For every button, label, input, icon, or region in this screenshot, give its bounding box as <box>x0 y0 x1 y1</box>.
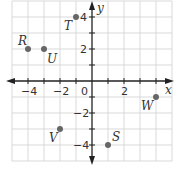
point-w <box>153 94 159 100</box>
y-tick-label: 4 <box>80 11 87 24</box>
point-v <box>57 126 63 132</box>
y-tick-label: −2 <box>73 107 89 120</box>
point-label-t: T <box>64 19 73 33</box>
point-label-r: R <box>17 34 27 48</box>
x-tick-label: −4 <box>21 85 37 98</box>
x-axis-label: x <box>165 83 172 97</box>
y-tick-label: 2 <box>80 43 87 56</box>
point-t <box>73 14 79 20</box>
origin-label: 0 <box>81 85 88 98</box>
arrow-up-icon <box>89 1 95 10</box>
point-label-v: V <box>49 131 59 145</box>
x-tick-label: 2 <box>121 85 128 98</box>
axes <box>6 1 174 165</box>
point-label-u: U <box>47 52 58 66</box>
y-tick-label: −4 <box>73 139 89 152</box>
coordinate-plane: y x 0 −4 −2 2 4 2 −2 −4 R U T V S W <box>0 0 181 175</box>
point-s <box>105 142 111 148</box>
arrow-left-icon <box>6 78 15 84</box>
x-tick-label: −2 <box>53 85 69 98</box>
point-label-s: S <box>112 130 120 144</box>
point-label-w: W <box>141 99 155 113</box>
y-axis-label: y <box>96 1 104 15</box>
